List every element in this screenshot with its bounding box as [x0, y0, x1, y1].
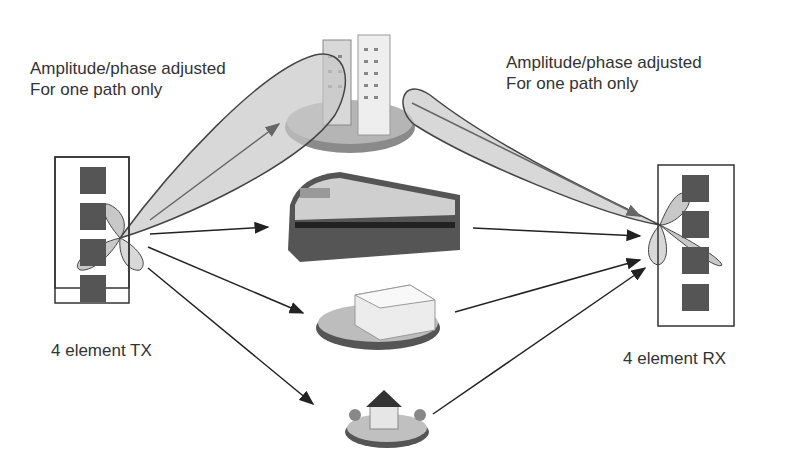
rx-annotation-line1: Amplitude/phase adjusted — [506, 52, 702, 73]
tx-annotation-line2: For one path only — [30, 79, 226, 100]
rx-label: 4 element RX — [623, 348, 726, 369]
rx-annotation: Amplitude/phase adjusted For one path on… — [506, 52, 702, 94]
tx-annotation: Amplitude/phase adjusted For one path on… — [30, 58, 226, 100]
rx-annotation-line2: For one path only — [506, 73, 702, 94]
tx-label: 4 element TX — [51, 340, 152, 361]
tx-annotation-line1: Amplitude/phase adjusted — [30, 58, 226, 79]
